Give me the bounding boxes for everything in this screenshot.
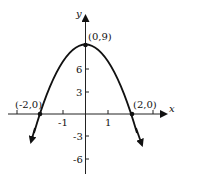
y-axis-label: y	[75, 8, 82, 19]
y-tick-label-6: 6	[76, 64, 82, 75]
right-intercept-point	[130, 112, 135, 117]
right-intercept-label: (2,0)	[133, 99, 157, 110]
right-arrow	[136, 128, 142, 145]
y-tick-label-3: 3	[76, 87, 82, 98]
left-arrow	[31, 128, 35, 142]
y-tick-label-neg6: -6	[73, 154, 83, 165]
parabola-chart: y x (0,9) (-2,0) (2,0) -1 1 6 3 -3 -6	[0, 0, 204, 180]
x-tick-label-1: 1	[105, 117, 111, 128]
vertex-label: (0,9)	[88, 31, 112, 42]
left-intercept-label: (-2,0)	[15, 99, 42, 110]
vertex-point	[83, 43, 88, 48]
y-tick-label-neg3: -3	[73, 131, 83, 142]
x-axis-label: x	[169, 103, 175, 114]
left-intercept-point	[38, 112, 43, 117]
x-tick-label-neg1: -1	[58, 117, 68, 128]
